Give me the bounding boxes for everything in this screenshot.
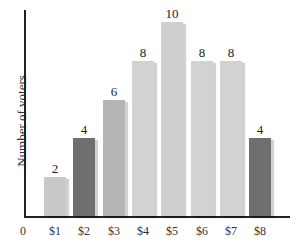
bar (161, 22, 183, 216)
x-tick-label: $3 (99, 224, 129, 239)
bar (103, 100, 125, 216)
x-tick-label: $2 (69, 224, 99, 239)
x-tick-label: $5 (157, 224, 187, 239)
bar-chart: Number of voters 0 2$14$26$38$410$58$68$… (0, 0, 297, 243)
bar (44, 177, 66, 216)
bar (191, 61, 213, 216)
bar-value-label: 6 (99, 84, 129, 100)
bar-value-label: 4 (69, 122, 99, 138)
x-tick-label: $1 (40, 224, 70, 239)
x-origin-label: 0 (8, 224, 38, 239)
x-tick-label: $4 (128, 224, 158, 239)
y-axis-label: Number of voters (14, 61, 30, 181)
bar-value-label: 4 (245, 122, 275, 138)
bar-value-label: 8 (128, 45, 158, 61)
x-tick-label: $6 (187, 224, 217, 239)
bar-value-label: 8 (187, 45, 217, 61)
bar (249, 138, 271, 216)
bar (132, 61, 154, 216)
bar (220, 61, 242, 216)
bar-value-label: 2 (40, 161, 70, 177)
bar (73, 138, 95, 216)
y-axis-line (24, 10, 26, 218)
x-axis-line (24, 216, 290, 218)
bar-value-label: 8 (216, 45, 246, 61)
bar-value-label: 10 (157, 6, 187, 22)
x-tick-label: $8 (245, 224, 275, 239)
x-tick-label: $7 (216, 224, 246, 239)
